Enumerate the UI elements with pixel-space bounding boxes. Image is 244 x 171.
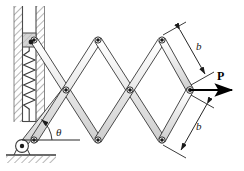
- joint-slider-pin: [29, 40, 34, 45]
- applied-force-group: P: [190, 69, 232, 90]
- scissor-linkage: [19, 38, 193, 148]
- wall-hatch-right: [36, 6, 45, 122]
- dim-lower-line: [181, 104, 207, 150]
- dim-upper-ext-end: [191, 72, 214, 85]
- ground-hatch: [6, 155, 56, 163]
- joint-top-right-pin: [160, 38, 164, 42]
- dim-upper-label: b: [196, 40, 202, 52]
- joint-bottom-mid-pin: [96, 138, 100, 142]
- fixed-wall-group: [14, 6, 45, 122]
- joint-bottom-right-pin: [160, 138, 164, 142]
- bar-topright-to-apex: [159, 38, 193, 91]
- dim-lower-ext-start: [191, 95, 214, 108]
- spring-coils: [24, 51, 36, 109]
- support-leg-left: [14, 150, 17, 156]
- force-label: P: [217, 69, 224, 83]
- dim-lower-label: b: [196, 120, 202, 132]
- support-pin: [20, 144, 24, 148]
- angle-label: θ: [56, 126, 62, 138]
- pin-support-group: [6, 140, 56, 163]
- bar-bottomright-to-apex: [159, 88, 193, 141]
- wall-hatch-left: [14, 6, 23, 122]
- support-leg-right: [27, 150, 30, 156]
- dim-upper-line: [180, 30, 205, 74]
- joint-mid-left-pin: [64, 88, 68, 92]
- joint-mid-right-pin: [128, 88, 132, 92]
- joint-top-mid-pin: [96, 38, 100, 42]
- coil-spring: [24, 47, 36, 121]
- figure-canvas: θ b b P: [0, 0, 244, 171]
- dim-upper-ext-start: [163, 22, 186, 35]
- mechanics-figure: θ b b P: [0, 0, 244, 171]
